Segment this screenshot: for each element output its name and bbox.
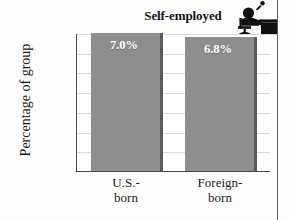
x-category-label-foreign-born: Foreign- born [177, 176, 263, 205]
chart-figure: Self-employed [0, 0, 290, 220]
page-divider-rule [277, 0, 278, 220]
x-category-label-us-born: U.S.- born [83, 176, 169, 205]
x-category-line: born [177, 191, 263, 206]
x-category-line: Foreign- [177, 176, 263, 191]
x-category-line: born [83, 191, 169, 206]
x-category-line: U.S.- [83, 176, 169, 191]
